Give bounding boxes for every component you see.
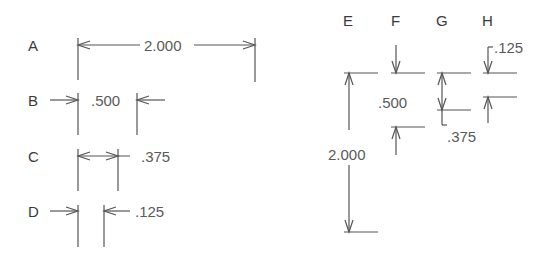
dimension-a-value: 2.000 <box>144 38 182 53</box>
dimension-g-graphics <box>437 73 471 125</box>
dimension-c-graphics <box>78 149 130 191</box>
label-d: D <box>28 204 39 219</box>
label-h: H <box>482 13 493 28</box>
dimension-e-value: 2.000 <box>328 147 366 162</box>
dimension-g-value: .375 <box>447 129 476 144</box>
dimension-h-value: .125 <box>494 40 523 55</box>
dimension-b-value: .500 <box>91 93 120 108</box>
dimensioning-diagram: A B C D E F G H 2.000 .500 .375 .125 2.0… <box>0 0 560 263</box>
dimension-c-value: .375 <box>141 149 170 164</box>
dimension-f-value: .500 <box>378 95 407 110</box>
dimension-d-value: .125 <box>135 204 164 219</box>
dimension-h-graphics <box>483 47 517 123</box>
label-c: C <box>28 149 39 164</box>
label-a: A <box>28 38 38 53</box>
label-g: G <box>436 13 448 28</box>
dimension-d-graphics <box>50 205 130 247</box>
label-b: B <box>28 93 38 108</box>
label-f: F <box>391 13 400 28</box>
label-e: E <box>343 13 353 28</box>
